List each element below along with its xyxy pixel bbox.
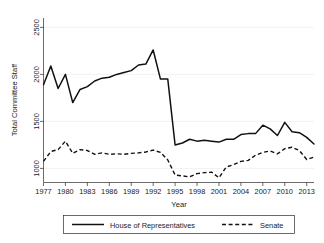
x-tick-label: 1998: [189, 187, 205, 196]
y-tick-label: 1000: [32, 160, 41, 176]
legend-label-senate: Senate: [260, 221, 283, 230]
x-tick-label: 2013: [298, 187, 314, 196]
x-tick-label: 1989: [123, 187, 139, 196]
y-tick-label: 1500: [32, 113, 41, 129]
x-tick-label: 2007: [255, 187, 271, 196]
x-tick-label: 2001: [211, 187, 227, 196]
x-tick-label: 1992: [145, 187, 161, 196]
x-tick-label: 1986: [101, 187, 117, 196]
x-axis-title: Year: [171, 200, 187, 209]
x-tick-label: 2010: [277, 187, 293, 196]
x-tick-label: 1983: [79, 187, 95, 196]
y-tick-label: 2000: [32, 66, 41, 82]
y-axis-title: Total Committee Staff: [10, 63, 19, 136]
legend-label-house: House of Representatives: [110, 221, 195, 230]
x-tick-label: 1995: [167, 187, 183, 196]
x-tick-label: 2004: [233, 187, 249, 196]
y-tick-label: 2500: [32, 19, 41, 35]
x-tick-label: 1980: [57, 187, 73, 196]
x-tick-label: 1977: [35, 187, 51, 196]
chart-figure: 1000150020002500 19771980198319861989199…: [0, 0, 324, 243]
chart-svg: 1000150020002500 19771980198319861989199…: [0, 0, 324, 243]
